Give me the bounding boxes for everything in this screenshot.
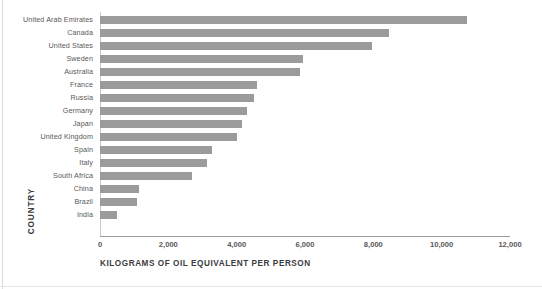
x-axis-line [100,236,510,237]
bar [100,172,192,180]
bar [100,107,247,115]
bar [100,133,237,141]
x-tick-label: 12,000 [498,240,521,249]
bar [100,16,467,24]
bar [100,42,372,50]
x-axis-title: KILOGRAMS OF OIL EQUIVALENT PER PERSON [100,259,311,268]
bar [100,120,242,128]
bar [100,55,303,63]
bar [100,159,207,167]
category-label: South Africa [0,171,93,180]
x-tick-label: 10,000 [430,240,453,249]
category-label: Japan [0,119,93,128]
category-label: United Kingdom [0,132,93,141]
category-label: United States [0,41,93,50]
bar [100,29,389,37]
x-tick-label: 8,000 [364,240,383,249]
x-tick-label: 6,000 [295,240,314,249]
plot-area: United Arab EmiratesCanadaUnited StatesS… [0,0,542,289]
y-axis-title: COUNTRY [27,176,36,246]
category-label: India [0,210,93,219]
bar [100,146,212,154]
category-label: Italy [0,158,93,167]
bar-chart-figure: United Arab EmiratesCanadaUnited StatesS… [0,0,542,289]
bar [100,185,139,193]
category-label: France [0,80,93,89]
category-label: United Arab Emirates [0,15,93,24]
x-tick-label: 2,000 [159,240,178,249]
bar [100,198,137,206]
category-label: Sweden [0,54,93,63]
x-tick-label: 4,000 [227,240,246,249]
bar [100,94,254,102]
bar [100,211,117,219]
x-tick-label: 0 [98,240,102,249]
category-label: Brazil [0,197,93,206]
category-label: Australia [0,67,93,76]
category-label: Russia [0,93,93,102]
category-label: China [0,184,93,193]
category-label: Germany [0,106,93,115]
bar [100,81,257,89]
bar [100,68,300,76]
category-label: Canada [0,28,93,37]
category-label: Spain [0,145,93,154]
